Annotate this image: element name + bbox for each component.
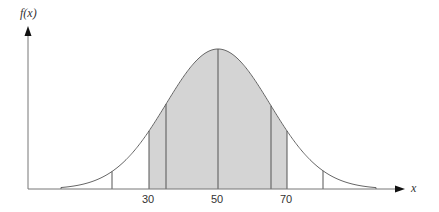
y-axis-label: f(x) xyxy=(20,6,37,21)
normal-distribution-chart xyxy=(0,0,439,212)
tick-label-30: 30 xyxy=(142,193,154,205)
x-axis-label: x xyxy=(411,181,416,196)
tick-label-70: 70 xyxy=(280,193,292,205)
x-axis-arrow-icon xyxy=(395,186,405,193)
vertical-markers xyxy=(61,49,376,189)
y-axis-arrow-icon xyxy=(25,26,32,36)
tick-label-50: 50 xyxy=(211,193,223,205)
